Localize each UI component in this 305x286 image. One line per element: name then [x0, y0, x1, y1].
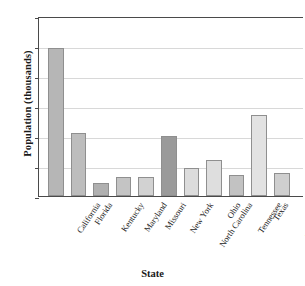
x-axis-title: State: [0, 268, 305, 279]
bar-chart: Population (thousands) 010,00020,00030,0…: [0, 0, 305, 286]
cropped-title-remnant: [95, 0, 215, 5]
bar: [93, 183, 109, 196]
y-axis-title: Population (thousands): [22, 14, 33, 194]
x-tick-label: Washington: [304, 201, 305, 240]
bar: [206, 160, 222, 196]
bar: [251, 115, 267, 196]
bar: [161, 136, 177, 196]
bar: [138, 177, 154, 197]
bar: [48, 48, 64, 197]
plot-area: 010,00020,00030,00040,00050,00060,000: [38, 17, 303, 197]
bar: [229, 175, 245, 196]
x-tick-label: Maryland: [142, 201, 168, 234]
bar: [274, 173, 290, 196]
bar: [71, 133, 87, 196]
x-tick-label: Kentucky: [120, 201, 146, 234]
bar: [184, 168, 200, 196]
bar: [116, 177, 132, 196]
y-tick-mark: [35, 198, 39, 199]
x-tick-label: New York: [188, 201, 215, 235]
bar-series: [39, 18, 303, 196]
